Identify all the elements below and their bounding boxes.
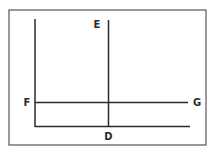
frame-border — [9, 10, 206, 145]
label-e: E — [94, 19, 101, 30]
label-g: G — [193, 97, 201, 108]
label-f: F — [24, 97, 31, 108]
diagram-canvas: E D F G — [0, 0, 216, 152]
label-d: D — [104, 131, 112, 142]
